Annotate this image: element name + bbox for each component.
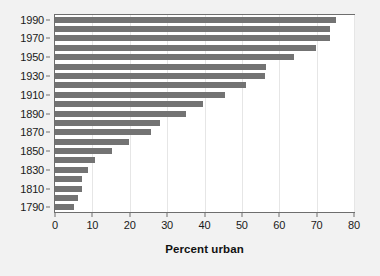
x-tick-mark — [316, 213, 317, 217]
bar — [55, 35, 330, 41]
bar — [55, 73, 265, 79]
x-tick-label: 0 — [52, 219, 58, 231]
y-tick-mark — [46, 113, 50, 114]
bar-fill — [55, 35, 330, 41]
x-tick-mark — [241, 213, 242, 217]
bar — [55, 176, 82, 182]
x-tick-mark — [167, 213, 168, 217]
y-tick-label: 1830 — [20, 164, 44, 176]
x-tick-mark — [204, 213, 205, 217]
bar-fill — [55, 73, 265, 79]
y-tick-mark — [46, 75, 50, 76]
x-axis-title: Percent urban — [54, 243, 355, 255]
x-tick-label: 30 — [161, 219, 173, 231]
y-tick-mark — [46, 38, 50, 39]
bar — [55, 45, 316, 51]
bar-fill — [55, 195, 78, 201]
bar-fill — [55, 167, 88, 173]
bar — [55, 186, 82, 192]
x-axis: 01020304050607080 — [54, 213, 355, 235]
x-tick-label: 70 — [311, 219, 323, 231]
x-tick-label: 80 — [348, 219, 360, 231]
y-tick-mark — [46, 169, 50, 170]
y-tick-label: 1950 — [20, 51, 44, 63]
bar-fill — [55, 82, 246, 88]
bar-fill — [55, 26, 330, 32]
bar — [55, 148, 112, 154]
bar — [55, 54, 294, 60]
y-tick-mark — [46, 57, 50, 58]
x-tick-label: 60 — [273, 219, 285, 231]
y-tick-mark — [46, 132, 50, 133]
x-tick-label: 40 — [199, 219, 211, 231]
x-tick-mark — [55, 213, 56, 217]
bar-fill — [55, 204, 74, 210]
bar — [55, 82, 246, 88]
bar — [55, 129, 151, 135]
bar-fill — [55, 17, 336, 23]
y-tick-mark — [46, 207, 50, 208]
bar — [55, 17, 336, 23]
bar-fill — [55, 129, 151, 135]
bar-fill — [55, 148, 112, 154]
bar-fill — [55, 139, 129, 145]
bar-fill — [55, 120, 160, 126]
bar — [55, 64, 266, 70]
bar-fill — [55, 157, 95, 163]
bar — [55, 26, 330, 32]
x-tick-label: 10 — [86, 219, 98, 231]
x-tick-label: 20 — [124, 219, 136, 231]
y-tick-label: 1990 — [20, 14, 44, 26]
x-tick-mark — [354, 213, 355, 217]
bar — [55, 139, 129, 145]
bar-fill — [55, 54, 294, 60]
bar — [55, 195, 78, 201]
bar — [55, 157, 95, 163]
y-tick-label: 1930 — [20, 70, 44, 82]
y-axis: 1790181018301850187018901910193019501970… — [0, 14, 50, 213]
bar — [55, 204, 74, 210]
bar-fill — [55, 45, 316, 51]
bar-fill — [55, 111, 186, 117]
bar-fill — [55, 186, 82, 192]
bar-fill — [55, 92, 225, 98]
y-tick-mark — [46, 19, 50, 20]
plot-area — [54, 14, 355, 213]
bar-fill — [55, 176, 82, 182]
x-tick-mark — [92, 213, 93, 217]
x-tick-label: 50 — [236, 219, 248, 231]
x-tick-mark — [129, 213, 130, 217]
y-tick-label: 1970 — [20, 32, 44, 44]
y-tick-mark — [46, 188, 50, 189]
bar — [55, 167, 88, 173]
y-tick-label: 1890 — [20, 108, 44, 120]
y-tick-mark — [46, 94, 50, 95]
bar — [55, 111, 186, 117]
y-tick-mark — [46, 151, 50, 152]
x-tick-mark — [279, 213, 280, 217]
bar — [55, 120, 160, 126]
y-tick-label: 1790 — [20, 201, 44, 213]
y-tick-label: 1910 — [20, 89, 44, 101]
y-tick-label: 1870 — [20, 126, 44, 138]
bar — [55, 101, 203, 107]
y-tick-label: 1850 — [20, 145, 44, 157]
bar-fill — [55, 64, 266, 70]
figure-canvas: 1790181018301850187018901910193019501970… — [0, 0, 380, 276]
bar-fill — [55, 101, 203, 107]
bar — [55, 92, 225, 98]
y-tick-label: 1810 — [20, 183, 44, 195]
bar-series — [55, 15, 354, 212]
gridline — [354, 15, 355, 212]
